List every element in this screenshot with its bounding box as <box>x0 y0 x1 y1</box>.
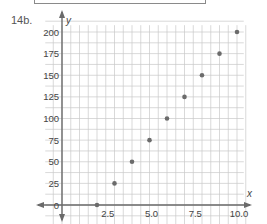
x-tick-label: 7.5 <box>189 208 202 219</box>
y-axis-arrow-down-icon <box>59 214 65 222</box>
x-tick-label: 10.0 <box>230 208 249 219</box>
data-point <box>165 116 170 121</box>
y-tick-label: 50 <box>48 156 59 167</box>
x-tick-label: 2.5 <box>101 208 114 219</box>
y-axis-label: y <box>65 15 72 26</box>
scatter-chart: 2001751501251007550250-25 2.55.07.510.0 … <box>0 0 267 224</box>
y-tick-label: 0 <box>54 200 59 211</box>
data-point <box>95 203 100 208</box>
y-tick-label: -25 <box>45 221 59 224</box>
data-point <box>182 95 187 100</box>
data-point <box>217 51 222 56</box>
y-tick-label: 200 <box>43 27 59 38</box>
grid-lines <box>45 21 246 224</box>
y-tick-label: 75 <box>48 135 59 146</box>
data-point <box>147 138 152 143</box>
data-point <box>112 181 117 186</box>
data-point <box>235 30 240 35</box>
x-axis-label: x <box>246 188 253 199</box>
y-tick-label: 175 <box>43 48 59 59</box>
data-point <box>200 73 205 78</box>
y-axis-arrow-up-icon <box>59 10 65 18</box>
y-tick-label: 125 <box>43 91 59 102</box>
y-tick-label: 25 <box>48 178 59 189</box>
data-point <box>130 159 135 164</box>
y-tick-label: 100 <box>43 113 59 124</box>
y-tick-label: 150 <box>43 70 59 81</box>
x-axis-arrow-left-icon <box>36 202 44 208</box>
x-tick-label: 5.0 <box>145 208 158 219</box>
